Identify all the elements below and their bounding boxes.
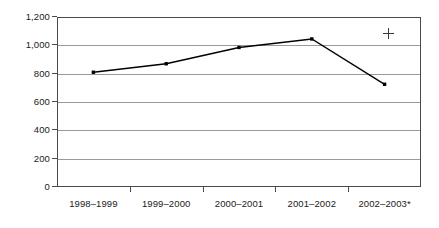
data-point-marker [165,62,168,65]
data-point-marker [237,46,240,49]
data-point-marker [92,71,95,74]
series-line [93,39,384,84]
line-chart: 02004006008001,0001,200 1998–19991999–20… [0,0,439,228]
registration-crosshair-icon [383,28,394,39]
data-point-marker [310,37,313,40]
data-point-marker [383,83,386,86]
series-marker-group [92,37,387,86]
data-series-layer [0,0,439,228]
